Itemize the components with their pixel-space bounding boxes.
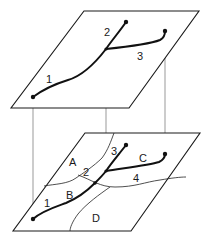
bottom-node-end-c <box>163 152 167 156</box>
top-node-end-3 <box>163 29 167 33</box>
diagram-canvas: 1 2 3 A B C <box>0 0 204 247</box>
top-label-3: 3 <box>137 50 143 62</box>
bottom-label-3: 3 <box>111 145 117 157</box>
top-node-start <box>31 95 35 99</box>
bottom-node-junction <box>104 169 107 172</box>
region-label-a: A <box>69 156 77 168</box>
region-label-d: D <box>92 212 100 224</box>
bottom-node-end-3 <box>124 143 128 147</box>
bottom-node-start <box>31 217 35 221</box>
bottom-label-1: 1 <box>44 197 50 209</box>
bottom-node-boundary-junction <box>93 181 97 185</box>
region-label-b: B <box>66 189 73 201</box>
top-label-1: 1 <box>46 73 52 85</box>
top-node-junction <box>104 47 107 50</box>
top-node-end-2 <box>124 20 128 24</box>
top-label-2: 2 <box>104 26 110 38</box>
bottom-plane-outline <box>13 133 200 231</box>
bottom-label-2: 2 <box>83 166 89 178</box>
region-label-c: C <box>139 152 147 164</box>
bottom-plane: A B C D 1 2 3 4 <box>13 133 200 231</box>
top-plane: 1 2 3 <box>11 11 199 108</box>
bottom-label-4: 4 <box>133 172 139 184</box>
